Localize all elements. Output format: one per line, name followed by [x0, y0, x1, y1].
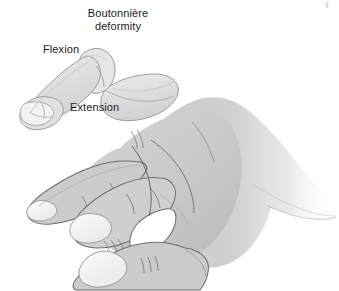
hand-illustration-svg: [0, 0, 339, 291]
illustration-figure: Boutonnière deformity Flexion Extension: [0, 0, 339, 291]
scan-speck: [325, 2, 328, 8]
index-finger-deformed-group: [20, 48, 179, 129]
thumb-group: [73, 242, 208, 290]
middle-fingernail: [70, 214, 112, 243]
scan-artifact-group: [325, 2, 328, 8]
index-fingernail: [20, 102, 53, 126]
